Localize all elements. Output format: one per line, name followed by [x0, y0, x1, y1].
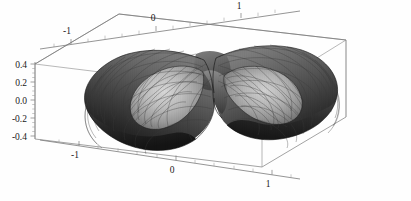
- z-tick-label-0: 0.4: [15, 60, 27, 70]
- surface-3d: [84, 45, 339, 154]
- x-front-tick-label-0: -1: [71, 150, 79, 160]
- z-tick-label-3: -0.2: [12, 114, 27, 124]
- x-front-tick-label-2: 1: [266, 179, 271, 189]
- x-front-tick-label-1: 0: [170, 165, 175, 175]
- z-tick-label-2: 0.0: [15, 96, 27, 106]
- surface-plot-figure: 0.4 0.2 0.0 -0.2 -0.4 -1 0 1 -1 0 1: [0, 0, 411, 201]
- axis-z: [31, 62, 36, 139]
- z-tick-label-4: -0.4: [12, 132, 27, 142]
- x-rear-tick-labels: -1 0 1: [63, 1, 242, 36]
- x-rear-tick-label-1: 0: [151, 13, 156, 23]
- z-tick-label-1: 0.2: [15, 78, 27, 88]
- x-rear-tick-label-0: -1: [63, 26, 71, 36]
- z-tick-labels: 0.4 0.2 0.0 -0.2 -0.4: [12, 60, 27, 142]
- plot-canvas: 0.4 0.2 0.0 -0.2 -0.4 -1 0 1 -1 0 1: [0, 0, 411, 201]
- x-rear-tick-label-2: 1: [237, 1, 242, 11]
